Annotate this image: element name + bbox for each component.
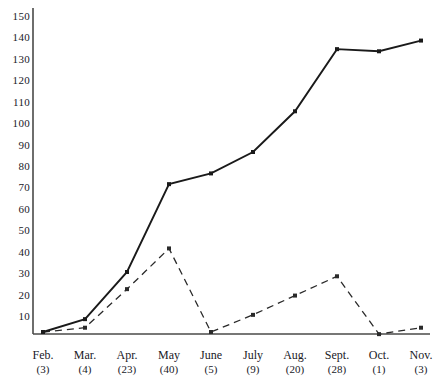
x-axis-month-label: Nov. xyxy=(391,348,438,362)
x-axis-count-label: (3) xyxy=(391,362,438,376)
x-axis-tick-labels: Feb.(3)Mar.(4)Apr.(23)May(40)June(5)July… xyxy=(0,0,438,390)
line-chart: 102030405060708090100110120130140150 Feb… xyxy=(0,0,438,390)
x-axis-tick-group: Nov.(3) xyxy=(391,348,438,376)
